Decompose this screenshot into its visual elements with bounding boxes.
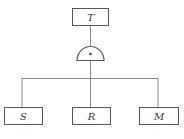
top-event-T[interactable]: T	[73, 9, 109, 26]
basic-event-R[interactable]: R	[73, 108, 111, 125]
fault-tree-diagram: T S R M	[0, 0, 184, 139]
basic-event-label: R	[87, 111, 96, 122]
basic-event-label: M	[153, 111, 165, 122]
basic-event-label: S	[20, 111, 27, 122]
and-gate-dot-icon	[89, 53, 91, 55]
basic-event-M[interactable]: M	[140, 108, 179, 125]
and-gate[interactable]	[77, 47, 104, 61]
basic-event-S[interactable]: S	[5, 108, 43, 125]
